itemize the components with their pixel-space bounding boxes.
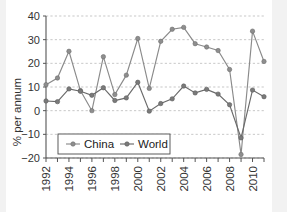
- x-tick-label-2000: 2000: [132, 166, 144, 192]
- data-point-china-2003: [170, 27, 174, 31]
- legend-label-china[interactable]: China: [84, 138, 115, 150]
- y-tick-label--10: −10: [21, 128, 40, 140]
- y-tick-label--20: −20: [21, 152, 40, 164]
- y-axis-label-group: % per annum: [11, 78, 23, 146]
- x-tick-label-2010: 2010: [247, 166, 259, 192]
- data-point-world-2001: [147, 109, 151, 113]
- data-point-world-2002: [159, 101, 163, 105]
- data-point-world-2008: [227, 103, 231, 107]
- data-point-world-2003: [170, 97, 174, 101]
- y-tick-label-10: 10: [28, 81, 40, 93]
- line-chart: −20−10010203040 199219941996199820002002…: [6, 0, 272, 212]
- data-point-world-2000: [136, 80, 140, 84]
- data-point-world-2005: [193, 91, 197, 95]
- data-point-world-1993: [55, 99, 59, 103]
- data-point-china-2004: [181, 25, 185, 29]
- x-tick-label-1996: 1996: [86, 166, 98, 192]
- x-tick-label-1998: 1998: [109, 166, 121, 192]
- x-tick-label-1994: 1994: [63, 165, 75, 191]
- data-point-china-1994: [67, 49, 71, 53]
- data-point-china-1992: [44, 82, 48, 86]
- data-point-china-1998: [113, 92, 117, 96]
- y-tick-label-40: 40: [28, 10, 40, 22]
- x-tick-labels-group: 1992199419961998200020022004200620082010: [40, 165, 259, 191]
- data-point-china-1999: [124, 73, 128, 77]
- data-point-world-1994: [67, 87, 71, 91]
- y-tick-label-30: 30: [28, 34, 40, 46]
- chart-figure: −20−10010203040 199219941996199820002002…: [0, 0, 287, 212]
- data-point-world-2011: [262, 95, 266, 99]
- data-point-world-1999: [124, 96, 128, 100]
- data-point-world-2006: [204, 87, 208, 91]
- data-point-china-1993: [55, 76, 59, 80]
- data-point-china-2010: [250, 29, 254, 33]
- legend-marker-china: [71, 142, 75, 146]
- data-point-world-1997: [101, 86, 105, 90]
- data-point-china-2000: [136, 36, 140, 40]
- data-point-china-1997: [101, 55, 105, 59]
- data-point-china-2006: [204, 45, 208, 49]
- chart-canvas: −20−10010203040 199219941996199820002002…: [6, 0, 272, 212]
- data-point-china-2001: [147, 86, 151, 90]
- legend-marker-world: [125, 142, 129, 146]
- y-tick-label-20: 20: [28, 57, 40, 69]
- data-point-world-1998: [113, 98, 117, 102]
- data-point-world-1996: [90, 93, 94, 97]
- x-tick-marks-group: [46, 158, 264, 162]
- data-point-world-1995: [78, 89, 82, 93]
- data-point-china-2008: [227, 67, 231, 71]
- data-point-china-2009: [239, 152, 243, 156]
- x-tick-label-2004: 2004: [178, 165, 190, 191]
- data-point-china-1996: [90, 108, 94, 112]
- x-tick-label-1992: 1992: [40, 166, 52, 192]
- data-point-china-2007: [216, 48, 220, 52]
- x-tick-label-2006: 2006: [201, 166, 213, 192]
- data-point-world-2009: [239, 136, 243, 140]
- y-tick-label-0: 0: [34, 105, 40, 117]
- data-point-world-2010: [250, 88, 254, 92]
- data-point-world-2004: [181, 84, 185, 88]
- data-point-china-2011: [262, 59, 266, 63]
- x-tick-label-2002: 2002: [155, 166, 167, 192]
- data-point-china-2005: [193, 41, 197, 45]
- data-point-world-2007: [216, 92, 220, 96]
- chart-legend[interactable]: ChinaWorld: [58, 134, 170, 154]
- data-point-china-2002: [159, 39, 163, 43]
- y-axis-title: % per annum: [11, 78, 23, 146]
- x-tick-label-2008: 2008: [224, 166, 236, 192]
- legend-label-world[interactable]: World: [138, 138, 168, 150]
- data-point-world-1992: [44, 99, 48, 103]
- y-tick-labels-group: −20−10010203040: [21, 10, 40, 164]
